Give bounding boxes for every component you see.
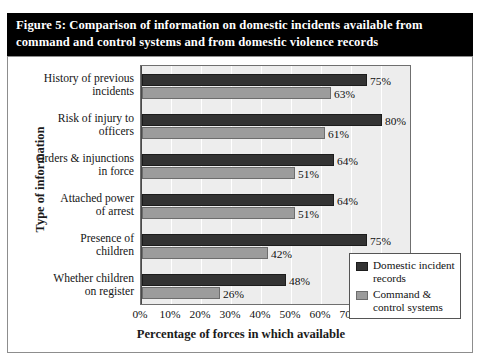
gridline [261,66,262,304]
y-axis-line [141,66,142,304]
legend-label-line: records [373,272,455,285]
x-axis-title: Percentage of forces in which available [8,327,474,342]
legend-swatch [356,262,368,271]
category-label: Risk of injury toofficers [26,112,134,138]
category-label: Whether childrenon register [26,272,134,298]
legend-label-line: control systems [373,301,443,314]
bar-value-label: 63% [334,88,355,100]
bar [142,127,325,139]
category-label: Presence ofchildren [26,232,134,258]
category-label-line: Risk of injury to [26,112,134,125]
category-label-line: Presence of [26,232,134,245]
legend-item: Command &control systems [356,288,455,313]
category-label-line: on register [26,285,134,298]
bar [142,87,331,99]
category-axis-labels: History of previousincidentsRisk of inju… [26,65,134,305]
bar [142,234,367,246]
gridline [201,66,202,304]
bar-value-label: 51% [298,208,319,220]
bar [142,74,367,86]
gridline [291,66,292,304]
figure-title-bar: Figure 5: Comparison of information on d… [7,13,473,56]
category-label-line: Orders & injunctions [26,152,134,165]
category-label-line: Whether children [26,272,134,285]
bar [142,167,295,179]
category-label-line: in force [26,165,134,178]
legend-label-line: Command & [373,288,443,301]
category-label-line: children [26,245,134,258]
legend-label: Domestic incidentrecords [373,259,455,284]
category-label: Attached powerof arrest [26,192,134,218]
bar [142,194,334,206]
bar [142,287,220,299]
category-label: History of previousincidents [26,72,134,98]
gridline [231,66,232,304]
legend-item: Domestic incidentrecords [356,259,455,284]
figure-container: Figure 5: Comparison of information on d… [0,0,488,364]
category-label-line: officers [26,125,134,138]
category-label-line: incidents [26,85,134,98]
legend-label-line: Domestic incident [373,259,455,272]
bar-value-label: 48% [289,275,310,287]
chart-legend: Domestic incidentrecordsCommand &control… [349,253,461,319]
bar-value-label: 26% [223,288,244,300]
gridline [171,66,172,304]
category-label-line: Attached power [26,192,134,205]
bar [142,247,268,259]
bar-value-label: 64% [337,195,358,207]
bar-value-label: 64% [337,155,358,167]
bar-value-label: 51% [298,168,319,180]
bar [142,114,382,126]
bar [142,207,295,219]
bar [142,154,334,166]
figure-title: Figure 5: Comparison of information on d… [16,17,464,50]
legend-label: Command &control systems [373,288,443,313]
chart-frame: Type of information History of previousi… [7,56,473,353]
category-label-line: of arrest [26,205,134,218]
legend-swatch [356,291,368,300]
category-label: Orders & injunctionsin force [26,152,134,178]
bar-value-label: 75% [370,235,391,247]
category-label-line: History of previous [26,72,134,85]
bar-value-label: 80% [385,115,406,127]
bar-value-label: 42% [271,248,292,260]
bar [142,274,286,286]
bar-value-label: 75% [370,75,391,87]
bar-value-label: 61% [328,128,349,140]
gridline [321,66,322,304]
